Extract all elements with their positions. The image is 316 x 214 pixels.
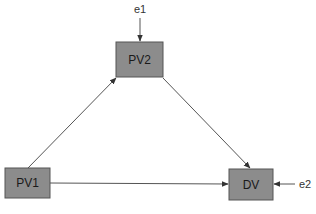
edge-pv1-to-dv [50, 183, 228, 184]
edge-pv1-to-pv2 [28, 78, 116, 168]
error-term-e2: e2 [299, 178, 311, 190]
node-pv1-label: PV1 [16, 176, 39, 190]
node-pv1: PV1 [5, 168, 50, 198]
node-dv: DV [229, 169, 273, 200]
node-pv2: PV2 [116, 42, 163, 77]
error-term-e1: e1 [134, 3, 146, 15]
node-pv2-label: PV2 [128, 53, 151, 67]
path-diagram: e1 e2 PV1 PV2 DV [0, 0, 316, 214]
edge-pv2-to-dv [163, 78, 250, 168]
node-dv-label: DV [243, 178, 260, 192]
